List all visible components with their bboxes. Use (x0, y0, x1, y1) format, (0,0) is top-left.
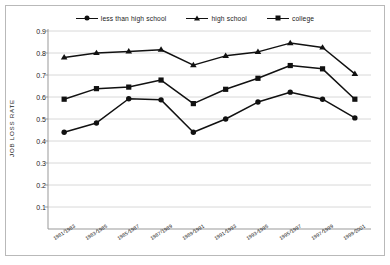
series-line (64, 43, 355, 74)
data-point-square (94, 86, 99, 91)
data-point-square (288, 63, 293, 68)
data-point-circle (126, 96, 131, 101)
series-line (64, 66, 355, 104)
data-point-circle (352, 115, 357, 120)
data-point-circle (94, 120, 99, 125)
data-point-circle (223, 116, 228, 121)
chart-figure: less than high school high school colleg… (0, 0, 390, 265)
data-point-circle (288, 89, 293, 94)
data-point-square (158, 77, 163, 82)
data-point-triangle (158, 46, 165, 51)
data-point-circle (191, 130, 196, 135)
data-point-circle (255, 99, 260, 104)
data-point-square (352, 97, 357, 102)
data-point-circle (320, 97, 325, 102)
data-point-square (126, 85, 131, 90)
data-point-square (62, 97, 67, 102)
data-point-square (223, 87, 228, 92)
data-point-square (320, 66, 325, 71)
data-point-circle (158, 97, 163, 102)
series-line (64, 92, 355, 132)
data-point-square (255, 76, 260, 81)
data-point-circle (61, 130, 66, 135)
data-point-triangle (287, 40, 294, 45)
data-point-square (191, 101, 196, 106)
